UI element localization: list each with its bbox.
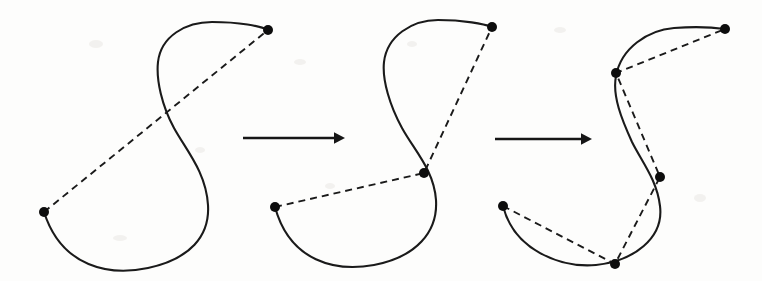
arrow-1-group bbox=[243, 132, 345, 143]
paper-speck-0 bbox=[89, 40, 103, 48]
paper-speck-3 bbox=[554, 27, 566, 33]
panel-2-curve bbox=[275, 20, 492, 267]
panel-2-endpoint-lower-left bbox=[270, 202, 280, 212]
panel-1-curve bbox=[44, 22, 268, 271]
paper-speck-6 bbox=[694, 194, 706, 202]
paper-speck-1 bbox=[294, 59, 306, 65]
panel-1-endpoint-lower-left bbox=[39, 207, 49, 217]
panel-3-group bbox=[503, 27, 725, 265]
panel-3-chord-polyline bbox=[503, 29, 725, 264]
panel-2-endpoint-upper-right bbox=[487, 22, 497, 32]
panel-3-endpoint-lower-left bbox=[498, 201, 508, 211]
arrow-1-head bbox=[334, 132, 345, 143]
panel-3-vertex-middle bbox=[655, 172, 665, 182]
panel-1-chord-polyline bbox=[44, 30, 268, 212]
curve-approximation-diagram bbox=[0, 0, 762, 281]
panel-1-group bbox=[44, 22, 268, 271]
panel-1-endpoint-upper-right bbox=[263, 25, 273, 35]
panel-2-midpoint-inflection bbox=[419, 168, 429, 178]
paper-speck-5 bbox=[325, 183, 335, 189]
panel-3-endpoint-upper-right bbox=[720, 24, 730, 34]
paper-texture-group bbox=[89, 27, 706, 241]
paper-speck-2 bbox=[407, 41, 417, 47]
paper-speck-7 bbox=[195, 147, 205, 153]
panel-3-curve bbox=[503, 27, 725, 265]
panel-2-group bbox=[275, 20, 492, 267]
panel-2-chord-polyline bbox=[275, 27, 492, 207]
arrow-2-head bbox=[581, 133, 592, 144]
panel-3-vertex-upper bbox=[611, 68, 621, 78]
paper-speck-4 bbox=[113, 235, 127, 241]
panel-3-vertex-bottom bbox=[610, 259, 620, 269]
figure-container bbox=[0, 0, 762, 281]
arrow-2-group bbox=[495, 133, 592, 144]
